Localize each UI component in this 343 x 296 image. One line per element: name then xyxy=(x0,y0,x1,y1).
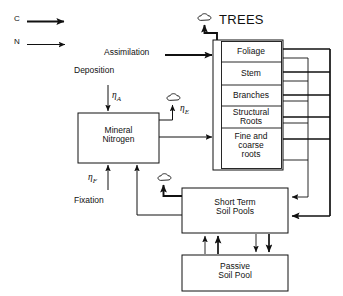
tree-compartment-branches-line1: Branches xyxy=(221,91,281,100)
flow-trees-respiration xyxy=(205,25,218,40)
flow-mineral-nitrogen-emission xyxy=(159,105,173,120)
cloud-icon-soil-respiration xyxy=(158,174,171,181)
tree-compartment-stem-line1: Stem xyxy=(221,69,281,78)
mineral-nitrogen-label: Mineral Nitrogen xyxy=(78,126,159,144)
diagram-vector-layer xyxy=(0,0,343,296)
bus-nitrogen-litterfall xyxy=(283,58,308,197)
flow-mineralization xyxy=(137,165,182,215)
flow-label-deposition: Deposition xyxy=(74,66,114,75)
eta-emission: ηE xyxy=(180,103,189,116)
eta-emission-subscript: E xyxy=(185,108,189,116)
tree-compartment-foliage: Foliage xyxy=(221,47,281,56)
eta-deposition-subscript: A xyxy=(117,95,121,103)
passive-soil-pool-line2: Soil Pool xyxy=(182,271,288,280)
eta-deposition: ηA xyxy=(112,90,121,103)
short-term-soil-pools-line2: Soil Pools xyxy=(182,207,288,216)
eta-fixation: ηF xyxy=(88,172,97,185)
legend-label-carbon: C xyxy=(14,15,20,24)
tree-compartment-fine-coarse-roots: Fine and coarse roots xyxy=(221,132,281,160)
page-title: TREES xyxy=(219,13,264,27)
short-term-soil-pools-label: Short Term Soil Pools xyxy=(182,198,288,216)
flow-label-fixation: Fixation xyxy=(74,196,104,205)
cloud-icon-trees-respiration xyxy=(198,14,211,21)
eta-fixation-subscript: F xyxy=(93,177,97,185)
passive-soil-pool-label: Passive Soil Pool xyxy=(182,262,288,280)
tree-compartment-foliage-line1: Foliage xyxy=(221,47,281,56)
flow-soil-respiration xyxy=(164,185,183,196)
tree-compartment-stem: Stem xyxy=(221,69,281,78)
mineral-nitrogen-line2: Nitrogen xyxy=(78,135,159,144)
nitrogen-carbon-flow-diagram: C N TREES Assimilation Deposition Fixati… xyxy=(0,0,343,296)
flow-label-assimilation: Assimilation xyxy=(104,48,149,57)
tree-compartment-structural-roots-line2: Roots xyxy=(221,117,281,126)
legend-label-nitrogen: N xyxy=(14,38,20,47)
tree-compartment-branches: Branches xyxy=(221,91,281,100)
cloud-icon-mineral-nitrogen-emission xyxy=(167,94,180,101)
tree-compartment-fine-coarse-roots-line3: roots xyxy=(221,150,281,159)
bus-carbon-litterfall xyxy=(283,49,330,216)
tree-compartment-structural-roots: Structural Roots xyxy=(221,108,281,126)
